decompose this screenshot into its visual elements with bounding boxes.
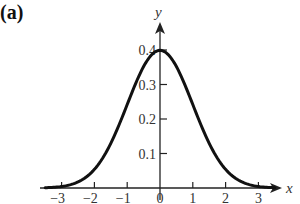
y-tick-label: 0.1 [139,147,157,162]
x-tick-label: 1 [189,191,196,204]
y-tick-label: 0.2 [139,112,157,127]
x-tick-label: −1 [116,191,131,204]
x-tick-label: 2 [222,191,229,204]
normal-curve-chart: −3−2−101230.10.20.30.4 x y [0,0,300,204]
x-tick-label: 0 [157,191,164,204]
x-tick-label: −2 [83,191,98,204]
y-tick-label: 0.3 [139,78,157,93]
x-tick-label: −3 [50,191,65,204]
axes [40,22,282,200]
x-tick-label: 3 [255,191,262,204]
x-axis-label: x [285,180,293,196]
y-axis-label: y [153,4,162,20]
y-tick-label: 0.4 [139,43,157,58]
